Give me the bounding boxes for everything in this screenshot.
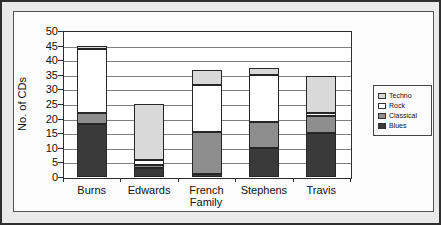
y-tick-label: 40 <box>28 54 58 66</box>
x-axis-tick <box>63 178 64 182</box>
bar-segment-techno <box>306 76 336 113</box>
y-tick-label: 50 <box>28 25 58 37</box>
bar-french <box>192 31 222 177</box>
y-axis-tick <box>58 119 63 120</box>
y-axis-tick <box>58 31 63 32</box>
legend-swatch-techno <box>378 93 386 99</box>
bar-segment-blues <box>192 174 222 177</box>
legend-item-techno: Techno <box>378 91 428 100</box>
legend-label: Blues <box>389 122 407 130</box>
y-tick-label: 20 <box>28 113 58 125</box>
bar-segment-blues <box>249 148 279 177</box>
y-tick-label: 10 <box>28 142 58 154</box>
y-axis-tick <box>58 46 63 47</box>
y-tick-label: 35 <box>28 69 58 81</box>
bar-stephens <box>249 31 279 177</box>
figure-frame: No. of CDs 05101520253035404550BurnsEdwa… <box>0 0 441 225</box>
y-axis-tick <box>58 60 63 61</box>
y-axis-tick <box>58 89 63 90</box>
bar-segment-rock <box>192 85 222 132</box>
bar-segment-classical <box>249 122 279 148</box>
bar-edwards <box>134 31 164 177</box>
x-tick-label: Travis <box>293 184 350 196</box>
y-tick-label: 0 <box>28 171 58 183</box>
legend-item-rock: Rock <box>378 101 428 110</box>
x-axis-tick <box>120 178 121 182</box>
y-tick-label: 30 <box>28 83 58 95</box>
x-tick-label: French <box>178 184 235 196</box>
bar-segment-blues <box>77 124 107 177</box>
legend-item-blues: Blues <box>378 121 428 130</box>
y-axis-tick <box>58 75 63 76</box>
bar-segment-rock <box>77 49 107 113</box>
legend-label: Rock <box>389 102 405 110</box>
x-tick-label: Edwards <box>120 184 177 196</box>
bar-segment-techno <box>134 104 164 159</box>
x-axis-tick <box>293 178 294 182</box>
y-axis-tick <box>58 148 63 149</box>
bar-segment-classical <box>192 132 222 174</box>
legend-label: Classical <box>389 112 417 120</box>
bar-segment-classical <box>306 116 336 134</box>
y-axis-tick <box>58 133 63 134</box>
bar-segment-blues <box>306 133 336 177</box>
legend-item-classical: Classical <box>378 111 428 120</box>
x-tick-label: Burns <box>63 184 120 196</box>
x-axis-tick <box>350 178 351 182</box>
x-axis-tick <box>178 178 179 182</box>
x-axis-title: Family <box>166 196 246 208</box>
bar-segment-techno <box>192 70 222 85</box>
x-tick-label: Stephens <box>235 184 292 196</box>
legend-swatch-rock <box>378 103 386 109</box>
y-tick-label: 5 <box>28 156 58 168</box>
y-tick-label: 25 <box>28 98 58 110</box>
bar-segment-classical <box>77 113 107 125</box>
x-axis-tick <box>235 178 236 182</box>
chart-panel: No. of CDs 05101520253035404550BurnsEdwa… <box>13 11 434 212</box>
y-tick-label: 15 <box>28 127 58 139</box>
bar-travis <box>306 31 336 177</box>
bar-segment-blues <box>134 168 164 177</box>
y-axis-tick <box>58 162 63 163</box>
bar-segment-rock <box>249 75 279 122</box>
legend-swatch-blues <box>378 123 386 129</box>
legend: TechnoRockClassicalBlues <box>373 85 432 136</box>
bar-burns <box>77 31 107 177</box>
bar-segment-techno <box>249 68 279 75</box>
legend-label: Techno <box>389 92 412 100</box>
y-tick-label: 45 <box>28 40 58 52</box>
legend-swatch-classical <box>378 113 386 119</box>
y-axis-tick <box>58 104 63 105</box>
